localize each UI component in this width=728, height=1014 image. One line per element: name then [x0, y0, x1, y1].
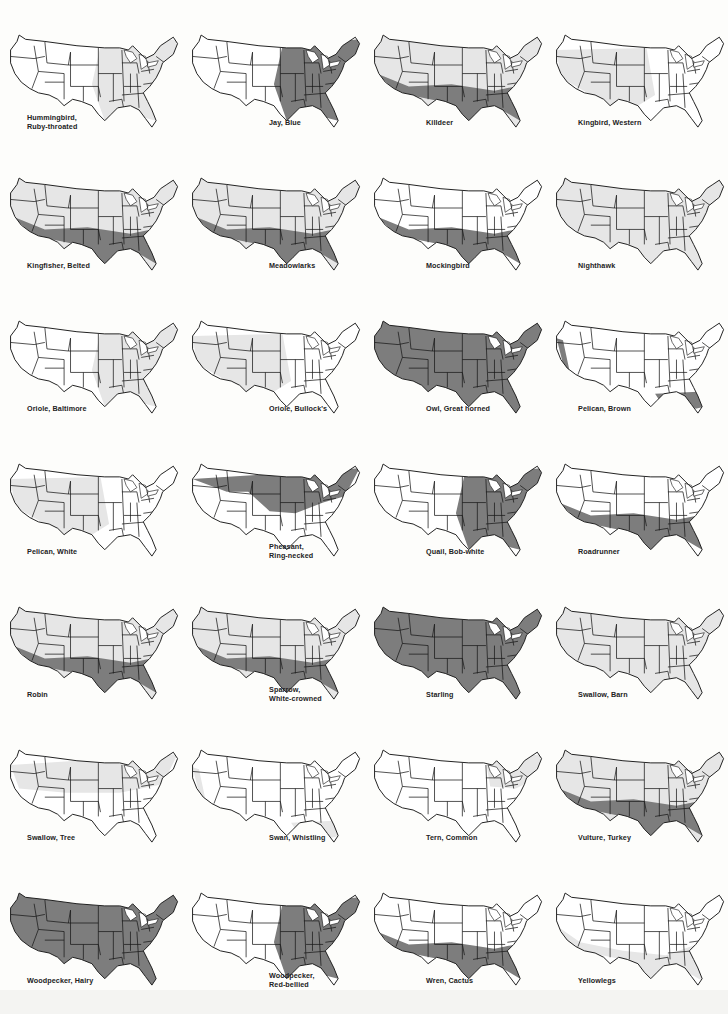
- caption-line: Woodpecker,: [269, 971, 315, 980]
- caption-line: Pheasant,: [269, 542, 313, 551]
- us-range-map: [366, 173, 548, 273]
- caption-line: Kingfisher, Belted: [27, 261, 90, 270]
- range-shading: [92, 325, 178, 406]
- us-range-map: [548, 602, 728, 702]
- map-caption: Meadowlarks: [269, 261, 315, 270]
- range-shading: [456, 468, 542, 549]
- range-map-grid: Hummingbird,Ruby-throatedJay, BlueKillde…: [0, 0, 728, 1014]
- caption-line: Roadrunner: [578, 547, 620, 556]
- caption-line: Oriole, Bullock's: [269, 404, 327, 413]
- us-range-map: [184, 745, 366, 845]
- range-map-pelican-brown: Pelican, Brown: [548, 286, 728, 414]
- us-range-map: [184, 30, 366, 130]
- page-bottom-strip: [0, 990, 728, 1014]
- caption-line: Tern, Common: [426, 833, 477, 842]
- us-range-map: [2, 888, 184, 988]
- range-map-vulture-turkey: Vulture, Turkey: [548, 715, 728, 843]
- range-map-kingfisher-belted: Kingfisher, Belted: [2, 143, 184, 271]
- map-base-fill: [375, 321, 542, 413]
- caption-line: Pelican, Brown: [578, 404, 631, 413]
- caption-line: Wren, Cactus: [426, 976, 473, 985]
- range-shading: [274, 897, 360, 978]
- range-map-yellowlegs: Yellowlegs: [548, 858, 728, 986]
- map-caption: Mockingbird: [426, 261, 470, 270]
- map-caption: Pelican, White: [27, 547, 77, 556]
- map-caption: Vulture, Turkey: [578, 833, 631, 842]
- caption-line: Woodpecker, Hairy: [27, 976, 93, 985]
- range-map-tern-common: Tern, Common: [366, 715, 548, 843]
- caption-line: Nighthawk: [578, 261, 615, 270]
- us-range-map: [366, 888, 548, 988]
- range-shading: [274, 39, 360, 120]
- range-map-owl-great-horned: Owl, Great horned: [366, 286, 548, 414]
- map-caption: Killdeer: [426, 118, 453, 127]
- caption-line: Sparrow,: [269, 685, 322, 694]
- range-map-hummingbird-ruby-throated: Hummingbird,Ruby-throated: [2, 0, 184, 128]
- map-caption: Oriole, Baltimore: [27, 404, 87, 413]
- us-range-map: [548, 745, 728, 845]
- range-map-robin: Robin: [2, 572, 184, 700]
- range-map-roadrunner: Roadrunner: [548, 429, 728, 557]
- range-map-pheasant-ring-necked: Pheasant,Ring-necked: [184, 429, 366, 557]
- map-caption: Swan, Whistling: [269, 833, 326, 842]
- map-caption: Starling: [426, 690, 454, 699]
- range-map-swan-whistling: Swan, Whistling: [184, 715, 366, 843]
- map-caption: Kingfisher, Belted: [27, 261, 90, 270]
- caption-line: Oriole, Baltimore: [27, 404, 87, 413]
- us-range-map: [184, 316, 366, 416]
- range-map-wren-cactus: Wren, Cactus: [366, 858, 548, 986]
- map-base-fill: [557, 178, 724, 270]
- caption-line: Jay, Blue: [269, 118, 301, 127]
- us-range-map: [366, 602, 548, 702]
- map-caption: Sparrow,White-crowned: [269, 685, 322, 703]
- map-caption: Swallow, Tree: [27, 833, 75, 842]
- us-range-map: [2, 459, 184, 559]
- range-map-woodpecker-red-bellied: Woodpecker,Red-bellied: [184, 858, 366, 986]
- map-caption: Nighthawk: [578, 261, 615, 270]
- caption-line: Robin: [27, 690, 48, 699]
- map-caption: Robin: [27, 690, 48, 699]
- us-range-map: [366, 745, 548, 845]
- map-caption: Roadrunner: [578, 547, 620, 556]
- range-map-swallow-tree: Swallow, Tree: [2, 715, 184, 843]
- caption-line: Hummingbird,: [27, 113, 77, 122]
- map-caption: Woodpecker,Red-bellied: [269, 971, 315, 989]
- range-map-mockingbird: Mockingbird: [366, 143, 548, 271]
- range-map-killdeer: Killdeer: [366, 0, 548, 128]
- map-caption: Pheasant,Ring-necked: [269, 542, 313, 560]
- caption-line: Pelican, White: [27, 547, 77, 556]
- caption-line: Ruby-throated: [27, 122, 77, 131]
- caption-line: Quail, Bob-white: [426, 547, 484, 556]
- range-shading: [193, 334, 291, 392]
- us-range-map: [548, 888, 728, 988]
- range-map-swallow-barn: Swallow, Barn: [548, 572, 728, 700]
- range-map-meadowlarks: Meadowlarks: [184, 143, 366, 271]
- map-caption: Hummingbird,Ruby-throated: [27, 113, 77, 131]
- range-map-pelican-white: Pelican, White: [2, 429, 184, 557]
- caption-line: White-crowned: [269, 694, 322, 703]
- caption-line: Meadowlarks: [269, 261, 315, 270]
- range-map-woodpecker-hairy: Woodpecker, Hairy: [2, 858, 184, 986]
- caption-line: Red-bellied: [269, 980, 315, 989]
- caption-line: Ring-necked: [269, 551, 313, 560]
- us-range-map: [548, 316, 728, 416]
- us-range-map: [184, 173, 366, 273]
- map-caption: Jay, Blue: [269, 118, 301, 127]
- map-caption: Tern, Common: [426, 833, 477, 842]
- range-shading: [557, 48, 655, 106]
- caption-line: Mockingbird: [426, 261, 470, 270]
- us-range-map: [548, 459, 728, 559]
- map-caption: Woodpecker, Hairy: [27, 976, 93, 985]
- map-base-fill: [375, 607, 542, 699]
- range-map-kingbird-western: Kingbird, Western: [548, 0, 728, 128]
- range-map-jay-blue: Jay, Blue: [184, 0, 366, 128]
- caption-line: Killdeer: [426, 118, 453, 127]
- map-caption: Quail, Bob-white: [426, 547, 484, 556]
- range-map-oriole-bullock-s: Oriole, Bullock's: [184, 286, 366, 414]
- range-map-quail-bob-white: Quail, Bob-white: [366, 429, 548, 557]
- us-range-map: [548, 173, 728, 273]
- range-map-starling: Starling: [366, 572, 548, 700]
- caption-line: Starling: [426, 690, 454, 699]
- map-caption: Oriole, Bullock's: [269, 404, 327, 413]
- range-shading: [11, 477, 109, 535]
